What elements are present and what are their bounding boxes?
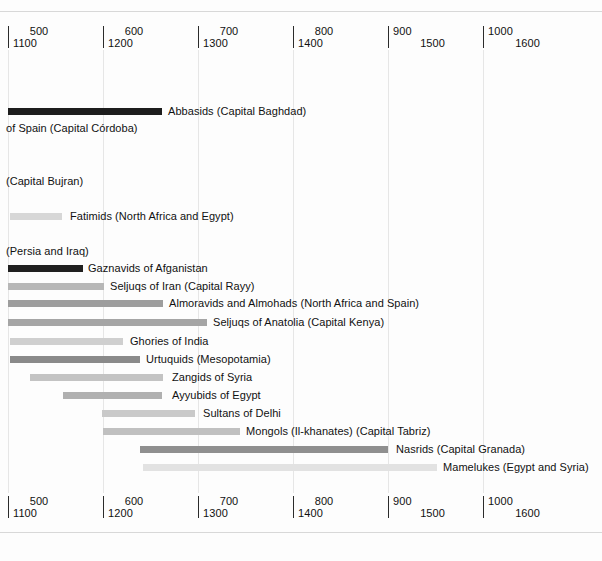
frame-rule-top bbox=[0, 11, 602, 12]
tick-mark-bottom-900 bbox=[388, 496, 389, 518]
bar-label-urtuquids-mesopotamia: Urtuquids (Mesopotamia) bbox=[146, 353, 271, 365]
bar-seljuqs-of-anatolia-capital-kenya[interactable] bbox=[8, 319, 207, 326]
axis-hijri-year: 800 bbox=[298, 26, 350, 38]
axis-hijri-year: 800 bbox=[298, 496, 350, 508]
bar-gaznavids-of-afganistan[interactable] bbox=[8, 265, 83, 272]
tick-mark-top-700 bbox=[198, 26, 199, 48]
annotation-capital-bujran: (Capital Bujran) bbox=[6, 175, 83, 187]
bar-label-seljuqs-of-iran-capital-rayy: Seljuqs of Iran (Capital Rayy) bbox=[110, 280, 255, 292]
bar-ayyubids-of-egypt[interactable] bbox=[63, 392, 162, 399]
axis-label-bottom-800: 8001400 bbox=[298, 496, 350, 519]
bar-urtuquids-mesopotamia[interactable] bbox=[10, 356, 140, 363]
axis-hijri-year: 1000 bbox=[488, 26, 540, 38]
tick-mark-top-600 bbox=[103, 26, 104, 48]
tick-mark-bottom-1000 bbox=[483, 496, 484, 518]
axis-gregorian-year: 1500 bbox=[393, 508, 445, 520]
tick-mark-bottom-700 bbox=[198, 496, 199, 518]
annotation-of-spain-capital-c-rdoba: of Spain (Capital Córdoba) bbox=[6, 122, 138, 134]
tick-mark-top-800 bbox=[293, 26, 294, 48]
frame-rule-bottom bbox=[0, 532, 602, 533]
bar-label-ayyubids-of-egypt: Ayyubids of Egypt bbox=[172, 389, 261, 401]
bar-nasrids-capital-granada[interactable] bbox=[140, 446, 388, 453]
axis-gregorian-year: 1200 bbox=[108, 508, 160, 520]
axis-label-bottom-1000: 10001600 bbox=[488, 496, 540, 519]
bar-label-fatimids-north-africa-and-egypt: Fatimids (North Africa and Egypt) bbox=[70, 210, 234, 222]
bar-ghories-of-india[interactable] bbox=[10, 338, 123, 345]
axis-hijri-year: 1000 bbox=[488, 496, 540, 508]
annotation-persia-and-iraq: (Persia and Iraq) bbox=[6, 245, 89, 257]
axis-gregorian-year: 1300 bbox=[203, 38, 255, 50]
bar-label-ghories-of-india: Ghories of India bbox=[130, 335, 208, 347]
tick-mark-bottom-500 bbox=[8, 496, 9, 518]
tick-mark-bottom-800 bbox=[293, 496, 294, 518]
axis-hijri-year: 700 bbox=[203, 496, 255, 508]
bar-label-abbasids-capital-baghdad: Abbasids (Capital Baghdad) bbox=[168, 105, 306, 117]
tick-mark-top-500 bbox=[8, 26, 9, 48]
axis-hijri-year: 500 bbox=[13, 496, 65, 508]
axis-gregorian-year: 1400 bbox=[298, 38, 350, 50]
axis-hijri-year: 700 bbox=[203, 26, 255, 38]
axis-gregorian-year: 1300 bbox=[203, 508, 255, 520]
bar-abbasids-capital-baghdad[interactable] bbox=[8, 108, 162, 115]
axis-hijri-year: 900 bbox=[393, 496, 445, 508]
bar-zangids-of-syria[interactable] bbox=[30, 374, 163, 381]
axis-gregorian-year: 1600 bbox=[488, 508, 540, 520]
bar-fatimids-north-africa-and-egypt[interactable] bbox=[10, 213, 62, 220]
bar-sultans-of-delhi[interactable] bbox=[102, 410, 195, 417]
bar-label-almoravids-and-almohads-north-africa-and-spain: Almoravids and Almohads (North Africa an… bbox=[169, 297, 419, 309]
bar-label-nasrids-capital-granada: Nasrids (Capital Granada) bbox=[396, 443, 525, 455]
gridline-1000 bbox=[483, 50, 484, 493]
axis-label-top-800: 8001400 bbox=[298, 26, 350, 49]
bar-label-mamelukes-egypt-and-syria: Mamelukes (Egypt and Syria) bbox=[443, 461, 589, 473]
tick-mark-top-900 bbox=[388, 26, 389, 48]
axis-gregorian-year: 1500 bbox=[393, 38, 445, 50]
bar-label-zangids-of-syria: Zangids of Syria bbox=[172, 371, 252, 383]
axis-label-bottom-900: 9001500 bbox=[393, 496, 445, 519]
axis-gregorian-year: 1100 bbox=[13, 38, 65, 50]
axis-gregorian-year: 1100 bbox=[13, 508, 65, 520]
bar-almoravids-and-almohads-north-africa-and-spain[interactable] bbox=[8, 300, 163, 307]
bar-label-seljuqs-of-anatolia-capital-kenya: Seljuqs of Anatolia (Capital Kenya) bbox=[213, 316, 384, 328]
axis-gregorian-year: 1600 bbox=[488, 38, 540, 50]
axis-gregorian-year: 1400 bbox=[298, 508, 350, 520]
axis-hijri-year: 500 bbox=[13, 26, 65, 38]
bar-mongols-il-khanates-capital-tabriz[interactable] bbox=[103, 428, 240, 435]
bar-label-mongols-il-khanates-capital-tabriz: Mongols (Il-khanates) (Capital Tabriz) bbox=[246, 425, 431, 437]
bar-seljuqs-of-iran-capital-rayy[interactable] bbox=[8, 283, 104, 290]
axis-hijri-year: 600 bbox=[108, 496, 160, 508]
axis-label-bottom-600: 6001200 bbox=[108, 496, 160, 519]
axis-label-top-1000: 10001600 bbox=[488, 26, 540, 49]
timeline-chart: 5001100600120070013008001400900150010001… bbox=[0, 0, 602, 561]
axis-gregorian-year: 1200 bbox=[108, 38, 160, 50]
bar-label-gaznavids-of-afganistan: Gaznavids of Afganistan bbox=[88, 262, 208, 274]
tick-mark-top-1000 bbox=[483, 26, 484, 48]
axis-label-bottom-500: 5001100 bbox=[13, 496, 65, 519]
bar-label-sultans-of-delhi: Sultans of Delhi bbox=[203, 407, 281, 419]
axis-label-top-600: 6001200 bbox=[108, 26, 160, 49]
axis-label-bottom-700: 7001300 bbox=[203, 496, 255, 519]
tick-mark-bottom-600 bbox=[103, 496, 104, 518]
axis-label-top-500: 5001100 bbox=[13, 26, 65, 49]
axis-hijri-year: 600 bbox=[108, 26, 160, 38]
axis-label-top-700: 7001300 bbox=[203, 26, 255, 49]
axis-label-top-900: 9001500 bbox=[393, 26, 445, 49]
axis-hijri-year: 900 bbox=[393, 26, 445, 38]
bar-mamelukes-egypt-and-syria[interactable] bbox=[143, 464, 437, 471]
